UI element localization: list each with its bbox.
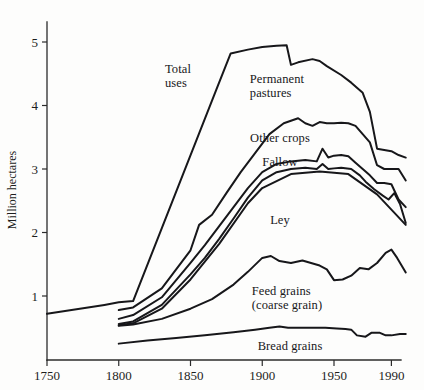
y-tick-label-4: 4 [32, 98, 39, 113]
y-tick-label-2: 2 [32, 225, 39, 240]
x-tick-label-1950: 1950 [321, 368, 347, 383]
series-label-ley: Ley [270, 213, 290, 227]
series-label-feed-grains-coarse-grain: Feed grains (coarse grain) [252, 284, 322, 312]
x-tick-label-1990: 1990 [378, 368, 404, 383]
x-tick-label-1750: 1750 [34, 368, 60, 383]
series-label-permanent-pastures: Permanent pastures [250, 72, 304, 100]
x-tick-label-1800: 1800 [106, 368, 132, 383]
chart-container: 12345175018001850190019501990Million hec… [0, 0, 424, 390]
series-label-bread-grains: Bread grains [258, 339, 323, 353]
series-label-other-crops: Other crops [250, 131, 310, 145]
x-tick-label-1900: 1900 [249, 368, 275, 383]
y-tick-label-1: 1 [32, 289, 39, 304]
chart-plot: 12345175018001850190019501990Million hec… [0, 0, 424, 390]
x-tick-label-1850: 1850 [178, 368, 204, 383]
y-axis-title: Million hectares [5, 151, 19, 230]
series-line-total-uses [47, 45, 406, 314]
series-label-total-uses: Total uses [165, 62, 191, 90]
series-line-permanent-pastures [119, 118, 406, 310]
series-label-fallow: Fallow [262, 155, 297, 169]
y-tick-label-5: 5 [32, 35, 39, 50]
y-tick-label-3: 3 [32, 162, 39, 177]
